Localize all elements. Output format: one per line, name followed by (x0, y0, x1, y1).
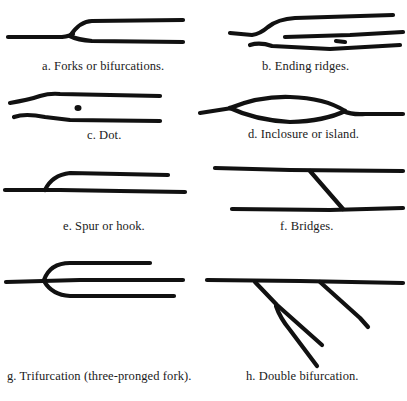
caption-spur: e. Spur or hook. (63, 219, 145, 234)
bridge-ridge-icon (215, 168, 403, 210)
caption-trifurcation: g. Trifurcation (three-pronged fork). (7, 369, 192, 384)
trifurcation-ridge-icon (6, 263, 183, 296)
caption-bridges: f. Bridges. (280, 219, 334, 234)
caption-double-bifurcation: h. Double bifurcation. (246, 369, 359, 384)
fork-ridge-icon (8, 20, 183, 42)
caption-dot: c. Dot. (87, 128, 121, 143)
double-bifurcation-ridge-icon (207, 280, 403, 366)
spur-ridge-icon (5, 173, 185, 192)
caption-ending-ridges: b. Ending ridges. (262, 59, 349, 74)
caption-forks: a. Forks or bifurcations. (42, 59, 164, 74)
dot-ridge-icon (10, 94, 160, 121)
island-ridge-icon (200, 97, 403, 122)
ending-ridge-icon (230, 15, 403, 49)
caption-inclosure: d. Inclosure or island. (248, 127, 359, 142)
